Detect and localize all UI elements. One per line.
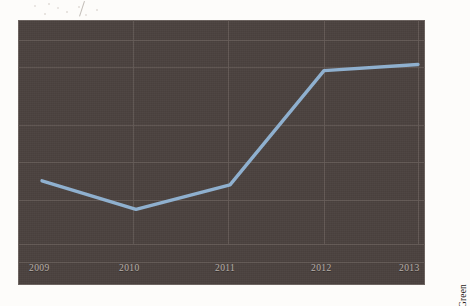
x-tick-label-2010: 2010 bbox=[119, 263, 140, 273]
x-tick-label-2013: 2013 bbox=[399, 263, 420, 273]
x-tick-label-2009: 2009 bbox=[29, 263, 50, 273]
scan-artifact-speck bbox=[44, 13, 46, 15]
source-credit: Source: Christopher Green bbox=[458, 284, 468, 306]
line-chart-figure: 2009 2010 2011 2012 2013 bbox=[18, 20, 425, 285]
scan-artifact-speck bbox=[66, 11, 68, 13]
scan-artifact-speck bbox=[34, 5, 36, 7]
x-tick-label-2011: 2011 bbox=[215, 263, 235, 273]
chart-series-layer bbox=[18, 20, 425, 285]
series-line-series-1 bbox=[42, 64, 418, 209]
scanned-page: 2009 2010 2011 2012 2013 Source: Christo… bbox=[0, 0, 470, 306]
x-tick-label-2012: 2012 bbox=[311, 263, 332, 273]
scan-artifact-speck bbox=[96, 9, 98, 11]
scan-artifact-speck bbox=[85, 14, 87, 16]
scan-artifact-speck bbox=[78, 6, 80, 8]
scan-artifact-speck bbox=[57, 7, 59, 9]
scan-artifact-speck bbox=[48, 3, 50, 5]
